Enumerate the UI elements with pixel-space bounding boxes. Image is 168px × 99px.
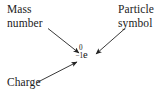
charge-digit: −1: [75, 53, 83, 60]
nuclide-notation: 0 −1 e: [74, 45, 102, 67]
arrow-charge-to-subscript: [37, 62, 77, 83]
nuclide-expression: 0 −1 e: [74, 45, 83, 63]
nuclide-prescripts: 0 −1: [74, 45, 83, 61]
element-symbol: e: [83, 50, 88, 61]
beta-particle-notation-diagram: Mass number Particle symbol Charge 0 −1 …: [0, 0, 168, 99]
